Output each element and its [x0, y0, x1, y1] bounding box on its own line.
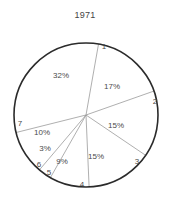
slice-percent-label: 32% — [53, 72, 69, 80]
slice-divider-5 — [50, 115, 86, 178]
pie-chart-canvas — [0, 0, 170, 207]
slice-index-label: 4 — [80, 181, 84, 189]
slice-percent-label: 3% — [39, 145, 51, 153]
slice-index-label: 6 — [37, 161, 41, 169]
slice-percent-label: 9% — [56, 158, 68, 166]
slice-percent-label: 15% — [108, 122, 124, 130]
slice-percent-label: 15% — [88, 153, 104, 161]
slice-index-label: 2 — [153, 98, 157, 106]
slice-percent-label: 10% — [34, 129, 50, 137]
slice-divider-1 — [86, 44, 99, 115]
slice-index-label: 1 — [102, 43, 106, 51]
slice-index-label: 7 — [18, 120, 22, 128]
slice-index-label: 3 — [135, 158, 139, 166]
slice-index-label: 5 — [47, 169, 51, 177]
slice-divider-4 — [86, 115, 89, 187]
slice-percent-label: 17% — [104, 83, 120, 91]
slice-divider-7 — [16, 115, 86, 132]
slice-divider-2 — [86, 91, 154, 115]
pie-chart-figure: 1971 17%15%15%9%3%10%32% 1234567 — [0, 0, 170, 207]
